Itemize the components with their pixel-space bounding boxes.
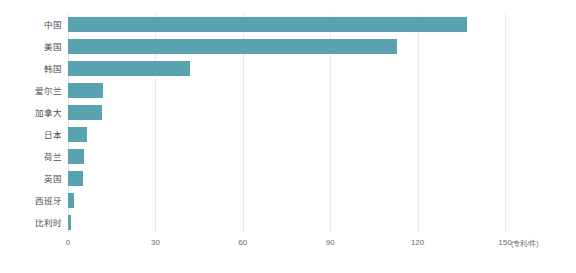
x-tick-label: 30 <box>151 238 160 247</box>
bar-row <box>68 124 505 146</box>
bar[interactable] <box>68 83 103 98</box>
bar[interactable] <box>68 105 102 120</box>
bar[interactable] <box>68 193 74 208</box>
plot-area <box>68 14 505 220</box>
bar-row <box>68 14 505 36</box>
bar-chart: 中国 美国 韩国 爱尔兰 加拿大 日本 荷兰 英国 西班牙 比利时 030609… <box>0 0 576 273</box>
bar-row <box>68 168 505 190</box>
category-label: 爱尔兰 <box>0 80 62 102</box>
x-tick-label: 150 <box>498 238 511 247</box>
bar-row <box>68 212 505 234</box>
category-label: 西班牙 <box>0 190 62 212</box>
category-axis-labels: 中国 美国 韩国 爱尔兰 加拿大 日本 荷兰 英国 西班牙 比利时 <box>0 14 62 220</box>
category-label: 加拿大 <box>0 102 62 124</box>
gridline <box>505 14 506 232</box>
bar[interactable] <box>68 149 84 164</box>
category-label: 英国 <box>0 168 62 190</box>
bar[interactable] <box>68 17 467 32</box>
x-axis: 0306090120150 (专利/件) <box>68 238 505 258</box>
bar-row <box>68 190 505 212</box>
x-tick-label: 90 <box>326 238 335 247</box>
x-axis-unit-label: (专利/件) <box>511 238 539 248</box>
bar[interactable] <box>68 127 87 142</box>
category-label: 比利时 <box>0 212 62 234</box>
x-tick-label: 60 <box>238 238 247 247</box>
bar-row <box>68 80 505 102</box>
category-label: 韩国 <box>0 58 62 80</box>
bar-row <box>68 146 505 168</box>
category-label: 荷兰 <box>0 146 62 168</box>
bar[interactable] <box>68 215 71 230</box>
bar[interactable] <box>68 171 83 186</box>
category-label: 中国 <box>0 14 62 36</box>
bar-row <box>68 102 505 124</box>
x-tick-label: 0 <box>66 238 70 247</box>
bar[interactable] <box>68 61 190 76</box>
category-label: 美国 <box>0 36 62 58</box>
bar[interactable] <box>68 39 397 54</box>
category-label: 日本 <box>0 124 62 146</box>
bar-row <box>68 36 505 58</box>
x-tick-label: 120 <box>411 238 424 247</box>
bar-row <box>68 58 505 80</box>
